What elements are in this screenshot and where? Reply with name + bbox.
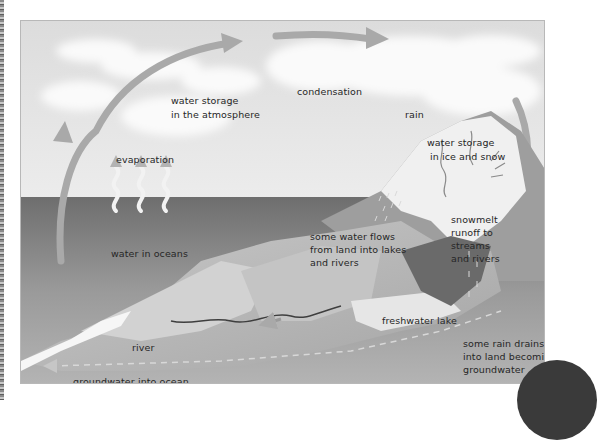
label-flows-line2: from land into lakes xyxy=(310,243,406,256)
label-river: river xyxy=(132,341,154,354)
label-flows-line1: some water flows xyxy=(310,230,395,243)
label-atmosphere-line1: water storage xyxy=(171,94,238,107)
label-drains-line2: into land becoming xyxy=(463,350,545,363)
label-groundwater-into-ocean: groundwater into ocean xyxy=(73,375,189,384)
page-edge-strip xyxy=(0,0,4,400)
label-snowmelt-line1: snowmelt xyxy=(451,213,498,226)
label-snowmelt-line3: streams xyxy=(451,239,490,252)
label-flows-line3: and rivers xyxy=(310,256,359,269)
label-drains-line1: some rain drains xyxy=(463,337,544,350)
label-evaporation: evaporation xyxy=(116,153,174,166)
label-ice-line1: water storage xyxy=(427,136,494,149)
label-rain: rain xyxy=(405,108,424,121)
corner-decoration xyxy=(517,360,597,440)
label-freshwater-lake: freshwater lake xyxy=(382,314,457,327)
label-condensation: condensation xyxy=(297,85,362,98)
diagram-illustration xyxy=(21,21,545,384)
label-snowmelt-line4: and rivers xyxy=(451,252,500,265)
label-snowmelt-line2: runoff to xyxy=(451,226,493,239)
water-cycle-diagram: condensation water storage in the atmosp… xyxy=(20,20,545,384)
label-atmosphere-line2: in the atmosphere xyxy=(171,108,260,121)
label-water-in-oceans: water in oceans xyxy=(111,247,188,260)
label-ice-line2: in ice and snow xyxy=(430,150,505,163)
label-drains-line3: groundwater xyxy=(463,363,525,376)
